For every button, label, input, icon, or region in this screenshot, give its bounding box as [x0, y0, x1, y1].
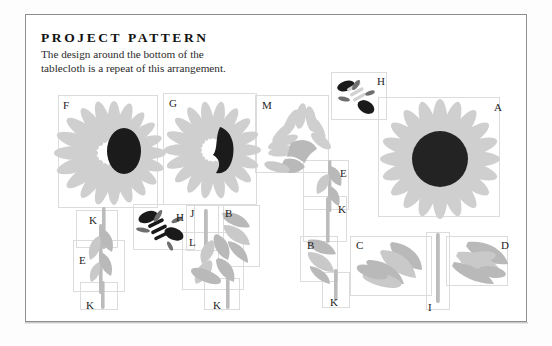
piece-label-e-left: E	[79, 255, 86, 266]
motif-stem-k-center-bottom	[222, 276, 234, 310]
page-subtitle: The design around the bottom of the tabl…	[41, 48, 281, 75]
motif-sunflower-f	[58, 95, 164, 213]
subtitle-line-2: tablecloth is a repeat of this arrangeme…	[41, 62, 226, 74]
motif-sunflower-a	[378, 97, 506, 223]
piece-label-b-center: B	[225, 208, 232, 219]
motif-stem-k-left-bottom	[97, 280, 109, 310]
piece-label-k-center-bottom: K	[213, 300, 221, 311]
piece-label-k-lower-right: K	[330, 297, 338, 308]
piece-label-h-upper: H	[377, 76, 385, 87]
piece-label-i: I	[428, 302, 432, 313]
piece-label-f: F	[63, 100, 69, 111]
piece-label-k-left-bottom: K	[86, 300, 94, 311]
piece-label-b-right: B	[307, 240, 314, 251]
piece-label-j: J	[190, 208, 194, 219]
piece-label-h-lower: H	[176, 212, 184, 223]
piece-label-c: C	[356, 240, 363, 251]
piece-label-l: L	[189, 237, 196, 248]
motif-stem-i	[432, 232, 444, 304]
subtitle-line-1: The design around the bottom of the	[41, 48, 204, 60]
piece-label-m: M	[262, 100, 272, 111]
piece-label-k-right: K	[338, 204, 346, 215]
page-title: PROJECT PATTERN	[41, 30, 209, 46]
page-edge-shadow	[25, 322, 528, 324]
piece-label-g: G	[169, 98, 177, 109]
piece-label-d: D	[501, 240, 509, 251]
pattern-page: PROJECT PATTERN The design around the bo…	[0, 0, 552, 346]
piece-label-e-right: E	[340, 168, 347, 179]
piece-label-a: A	[494, 102, 502, 113]
motif-leaf-cluster-c	[352, 236, 436, 296]
piece-label-k-left-top: K	[89, 215, 97, 226]
motif-sunflower-g	[163, 93, 263, 209]
